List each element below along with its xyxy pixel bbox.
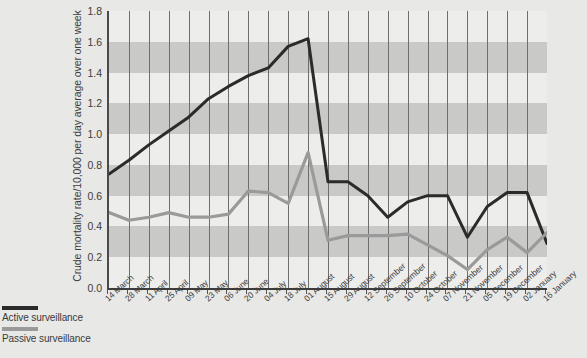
legend-item-active: Active surveillance [2, 306, 107, 323]
legend-label-passive: Passive surveillance [2, 333, 107, 344]
legend-swatch-passive-icon [2, 327, 38, 331]
x-axis-tick-labels: 14 March28 March11 April25 April09 May23… [0, 0, 587, 358]
legend-item-passive: Passive surveillance [2, 327, 107, 344]
chart-container: Crude mortality rate/10,000 per day aver… [0, 0, 587, 358]
legend-swatch-active-icon [2, 306, 38, 310]
legend-label-active: Active surveillance [2, 312, 107, 323]
chart-legend: Active surveillance Passive surveillance [2, 306, 107, 348]
